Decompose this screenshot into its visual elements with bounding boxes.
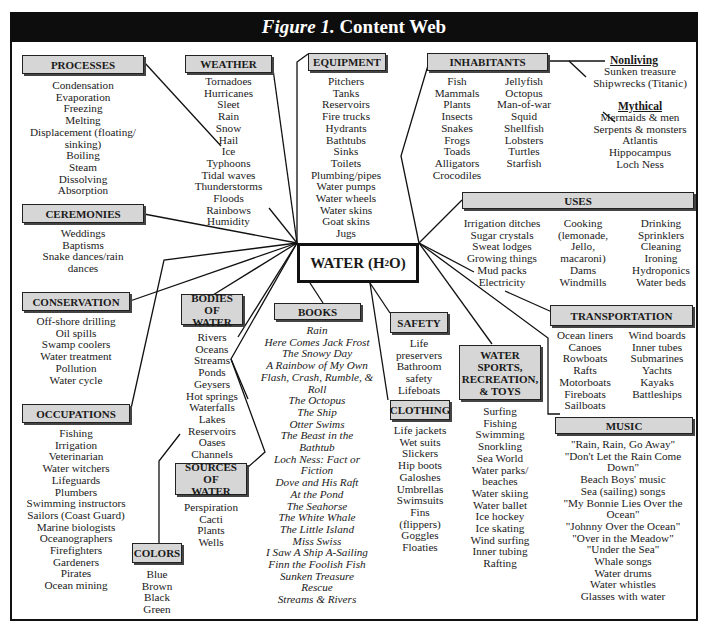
- list-item: Toilets: [300, 158, 392, 170]
- list-item: Condensation: [22, 80, 144, 92]
- list-item: Snakes: [425, 123, 489, 135]
- list-item: The Ship: [255, 407, 379, 419]
- list-item: dances: [22, 263, 144, 275]
- header-line: SOURCES OF: [178, 461, 244, 485]
- list-processes: Condensation Evaporation Freezing Meltin…: [22, 80, 144, 197]
- list-item: Ice skating: [457, 523, 543, 535]
- list-item: Battleships: [624, 389, 690, 401]
- list-water-sports: Surfing Fishing Swimming Snorkling Sea W…: [457, 406, 543, 570]
- list-item: Floods: [185, 193, 272, 205]
- list-item: Sailboats: [552, 400, 618, 412]
- list-item: Bathtub: [255, 442, 379, 454]
- header-line: WATER: [191, 485, 231, 497]
- list-item: Ocean liners: [552, 330, 618, 342]
- header-transportation: TRANSPORTATION: [550, 305, 693, 326]
- header-ceremonies: CEREMONIES: [22, 204, 144, 223]
- list-item: Channels: [180, 449, 244, 461]
- header-line: BODIES OF: [184, 292, 240, 316]
- header-weather: WEATHER: [185, 55, 272, 73]
- list-weather: Tornadoes Hurricanes Sleet Rain Snow Hai…: [185, 76, 272, 228]
- header-inhabitants: INHABITANTS: [427, 53, 548, 71]
- list-ceremonies: Weddings Baptisms Snake dances/rain danc…: [22, 228, 144, 275]
- list-item: Life: [388, 338, 450, 350]
- list-colors: Blue Brown Black Green: [132, 569, 182, 616]
- list-item: Snow: [185, 123, 272, 135]
- list-item: Pollution: [22, 363, 130, 375]
- header-books: BOOKS: [274, 303, 361, 320]
- list-item: Alligators: [425, 158, 489, 170]
- header-line: RECREATION,: [462, 373, 539, 385]
- list-conservation: Off-shore drilling Oil spills Swamp cool…: [22, 316, 130, 386]
- list-equipment: Pitchers Tanks Reservoirs Fire trucks Hy…: [300, 76, 392, 240]
- list-item: Rafting: [457, 558, 543, 570]
- list-item: Sea (sailing) songs: [552, 486, 694, 498]
- list-item: Finn the Foolish Fish: [255, 559, 379, 571]
- header-water-sports: WATER SPORTS, RECREATION, & TOYS: [459, 345, 541, 400]
- list-item: Life jackets: [388, 425, 452, 437]
- header-line: SPORTS,: [477, 361, 522, 373]
- list-item: Sailors (Coast Guard): [16, 510, 136, 522]
- header-colors: COLORS: [132, 543, 182, 563]
- list-item: Fins: [388, 507, 452, 519]
- header-line: WATER: [192, 316, 232, 328]
- list-transportation-col1: Ocean liners Canoes Rowboats Rafts Motor…: [552, 330, 618, 412]
- header-line: WATER: [480, 349, 520, 361]
- list-item: Humidity: [185, 216, 272, 228]
- figure-title-text: Content Web: [339, 16, 446, 37]
- header-safety: SAFETY: [390, 312, 448, 333]
- list-safety: Life preservers Bathroom safety Lifeboat…: [388, 338, 450, 397]
- list-item: Pitchers: [300, 76, 392, 88]
- list-item: Water cycle: [22, 375, 130, 387]
- list-music: "Rain, Rain, Go Away" "Don't Let the Rai…: [552, 439, 694, 603]
- list-item: Rain: [255, 325, 379, 337]
- list-item: Wind boards: [624, 330, 690, 342]
- header-sources-of-water: SOURCES OF WATER: [175, 463, 247, 495]
- header-processes: PROCESSES: [22, 55, 144, 74]
- center-text-suffix: O): [389, 255, 406, 272]
- list-item: Drinking: [630, 218, 692, 230]
- list-item: Lifeboats: [388, 385, 450, 397]
- list-item: Blue: [132, 569, 182, 581]
- list-books: Rain Here Comes Jack Frost The Snowy Day…: [255, 325, 379, 606]
- list-item: Typhoons: [185, 158, 272, 170]
- list-item: The Little Island: [255, 524, 379, 536]
- list-item: Fish: [425, 76, 489, 88]
- list-item: Water beds: [630, 277, 692, 289]
- list-item: At the Pond: [255, 489, 379, 501]
- header-clothing: CLOTHING: [390, 400, 450, 420]
- list-occupations: Fishing Irrigation Veterinarian Water wi…: [16, 428, 136, 592]
- list-item: Windmills: [553, 277, 613, 289]
- list-item: Sea World: [457, 453, 543, 465]
- list-item: Motorboats: [552, 377, 618, 389]
- list-item: Starfish: [490, 158, 558, 170]
- list-item: Glasses with water: [552, 591, 694, 603]
- list-item: Lakes: [180, 414, 244, 426]
- list-item: Firefighters: [16, 545, 136, 557]
- list-item: Rivers: [180, 332, 244, 344]
- list-item: Ocean mining: [16, 580, 136, 592]
- list-item: Surfing: [457, 406, 543, 418]
- list-item: Perspiration: [175, 502, 247, 514]
- list-item: Hydrants: [300, 123, 392, 135]
- list-item: Shellfish: [490, 123, 558, 135]
- list-mythical: Mermaids & men Serpents & monsters Atlan…: [588, 112, 692, 171]
- list-item: Irrigation ditches: [460, 218, 544, 230]
- list-item: Lifeguards: [16, 475, 136, 487]
- list-item: Cooking: [553, 218, 613, 230]
- list-item: Kayaks: [624, 377, 690, 389]
- list-item: Water wheels: [300, 193, 392, 205]
- list-item: Tornadoes: [185, 76, 272, 88]
- central-topic-water: WATER (H2O): [297, 243, 419, 283]
- list-item: Hydroponics: [630, 265, 692, 277]
- header-equipment: EQUIPMENT: [308, 53, 386, 71]
- list-inhabitants-col2: Jellyfish Octopus Man-of-war Squid Shell…: [490, 76, 558, 170]
- header-bodies-of-water: BODIES OF WATER: [181, 294, 243, 325]
- center-text: WATER (H: [310, 255, 384, 272]
- list-item: Dams: [553, 265, 613, 277]
- list-item: Wells: [175, 537, 247, 549]
- header-occupations: OCCUPATIONS: [22, 404, 130, 423]
- list-item: Whale songs: [552, 556, 694, 568]
- list-item: Floaties: [388, 542, 452, 554]
- list-item: Streams & Rivers: [255, 594, 379, 606]
- list-nonliving: Sunken treasure Shipwrecks (Titanic): [588, 66, 692, 89]
